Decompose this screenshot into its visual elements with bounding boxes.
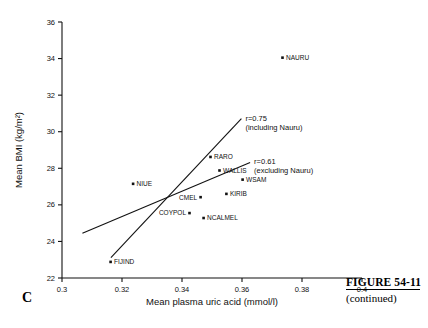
data-point-fijind [109, 261, 112, 264]
data-point-niue [132, 183, 135, 186]
y-tick-label: 30 [47, 127, 55, 136]
data-point-coypol [188, 212, 191, 215]
data-points: NAURURAROWALLISWSAMNIUEKIRIBCMELCOYPOLNC… [109, 54, 309, 265]
data-point-raro [209, 156, 212, 159]
annotation-r-including-nauru: r=0.75 [245, 114, 266, 123]
panel-letter: C [22, 290, 32, 306]
point-label-raro: RARO [214, 153, 233, 160]
y-tick-label: 36 [47, 18, 55, 27]
point-label-niue: NIUE [137, 180, 153, 187]
data-point-nauru [281, 56, 284, 59]
annotation-note-excluding-nauru: (excluding Nauru) [254, 166, 314, 175]
figure-caption-continued: (continued) [346, 292, 422, 304]
data-point-wallis [218, 169, 221, 172]
regression-lines [82, 119, 250, 258]
line-annotations: r=0.75(including Nauru)r=0.61(excluding … [245, 114, 313, 176]
y-axis-title: Mean BMI (kg/m²) [13, 112, 24, 188]
caption-divider [346, 289, 420, 290]
point-label-ncalmel: NCALMEL [207, 214, 238, 221]
point-label-coypol: COYPOL [159, 209, 186, 216]
y-tick-label: 32 [47, 91, 55, 100]
x-tick-label: 0.34 [175, 285, 190, 294]
point-label-kirib: KIRIB [230, 190, 247, 197]
regression-line-including-nauru [111, 119, 242, 258]
data-point-wsam [241, 178, 244, 181]
figure-caption: FIGURE 54-11 (continued) [346, 276, 422, 304]
data-point-cmel [199, 196, 202, 199]
y-tick-label: 28 [47, 164, 55, 173]
data-point-ncalmel [202, 217, 205, 220]
y-tick-label: 34 [47, 54, 55, 63]
figure-panel-c: 22242628303234360.30.320.340.360.380.4 N… [0, 0, 428, 328]
point-label-cmel: CMEL [179, 194, 197, 201]
figure-caption-title: FIGURE 54-11 [346, 276, 422, 288]
annotation-note-including-nauru: (including Nauru) [245, 123, 303, 132]
y-tick-label: 24 [47, 237, 55, 246]
y-tick-label: 26 [47, 200, 55, 209]
x-tick-label: 0.3 [57, 285, 67, 294]
point-label-wallis: WALLIS [223, 167, 247, 174]
x-tick-label: 0.38 [295, 285, 310, 294]
y-tick-label: 22 [47, 274, 55, 283]
point-label-fijind: FIJIND [114, 258, 135, 265]
x-tick-label: 0.32 [115, 285, 130, 294]
annotation-r-excluding-nauru: r=0.61 [254, 157, 275, 166]
x-tick-label: 0.36 [235, 285, 250, 294]
x-axis-title: Mean plasma uric acid (mmol/l) [146, 296, 278, 307]
point-label-wsam: WSAM [246, 176, 266, 183]
point-label-nauru: NAURU [286, 54, 309, 61]
data-point-kirib [225, 193, 228, 196]
